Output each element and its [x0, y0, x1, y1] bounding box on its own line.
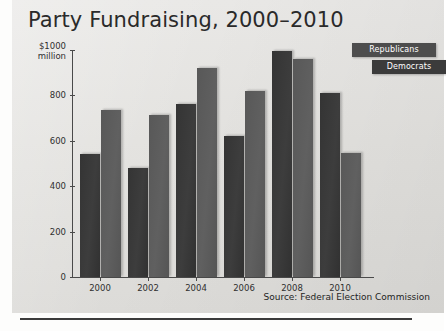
y-axis-tick — [70, 186, 75, 187]
bar-democrats-2002[interactable] — [149, 115, 169, 277]
y-axis-tick — [70, 50, 75, 51]
bar-group-2010 — [320, 50, 361, 277]
y-axis-tick-label: 600 — [6, 136, 66, 146]
y-axis-tick — [70, 95, 75, 96]
y-axis-tick-label: 200 — [6, 227, 66, 237]
x-axis-tick — [292, 277, 293, 281]
bar-republicans-2010[interactable] — [320, 93, 340, 277]
page-divider-rule — [20, 318, 412, 320]
x-axis-tick — [340, 277, 341, 281]
bar-group-2006 — [224, 50, 265, 277]
y-axis-top-label-line1: $1000 — [14, 41, 66, 51]
bar-republicans-2000[interactable] — [80, 154, 100, 277]
bar-republicans-2004[interactable] — [176, 104, 196, 277]
y-axis-top-label-line2: million — [14, 51, 66, 61]
x-axis-tick — [196, 277, 197, 281]
y-axis-tick — [70, 232, 75, 233]
bar-democrats-2010[interactable] — [341, 153, 361, 277]
bar-democrats-2006[interactable] — [245, 91, 265, 277]
x-axis-tick — [244, 277, 245, 281]
y-axis-tick-label: 400 — [6, 181, 66, 191]
bar-group-2000 — [80, 50, 121, 277]
x-axis-line — [72, 277, 374, 278]
legend-item-democrats[interactable]: Democrats — [372, 60, 446, 74]
bar-republicans-2002[interactable] — [128, 168, 148, 277]
y-axis-line — [72, 50, 73, 277]
y-axis-tick-label: 800 — [6, 90, 66, 100]
bar-republicans-2006[interactable] — [224, 136, 244, 277]
y-axis-tick — [70, 141, 75, 142]
x-axis-tick — [100, 277, 101, 281]
bar-democrats-2004[interactable] — [197, 68, 217, 277]
chart-source-note: Source: Federal Election Commission — [263, 292, 430, 302]
bar-group-2008 — [272, 50, 313, 277]
bar-democrats-2000[interactable] — [101, 110, 121, 277]
y-axis-tick — [70, 277, 75, 278]
page-title: Party Fundraising, 2000–2010 — [28, 8, 344, 32]
bar-democrats-2008[interactable] — [293, 59, 313, 277]
y-axis-tick-label: 0 — [6, 272, 66, 282]
bar-republicans-2008[interactable] — [272, 51, 292, 277]
bar-group-2002 — [128, 50, 169, 277]
x-axis-tick — [148, 277, 149, 281]
bar-group-2004 — [176, 50, 217, 277]
plot-area: $1000 million 0200400600800 200020022004… — [72, 50, 372, 277]
y-axis-top-label: $1000 million — [14, 41, 66, 61]
